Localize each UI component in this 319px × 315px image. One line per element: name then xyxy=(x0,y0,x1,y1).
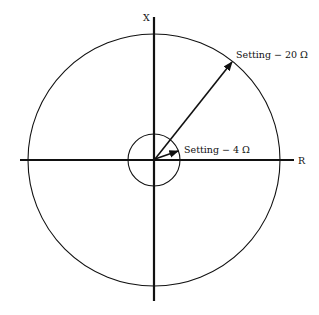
label-setting-4-ohm: Setting − 4 Ω xyxy=(184,144,250,155)
x-axis-label: X xyxy=(143,12,150,23)
r-axis-label: R xyxy=(298,155,306,166)
label-setting-20-ohm: Setting − 20 Ω xyxy=(236,49,308,60)
impedance-diagram: X R Setting − 20 Ω Setting − 4 Ω xyxy=(0,0,319,315)
